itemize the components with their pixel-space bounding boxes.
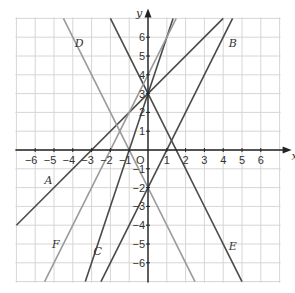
line-label-d: D bbox=[74, 37, 84, 50]
x-tick-label: 6 bbox=[258, 154, 264, 166]
x-axis-arrow-icon bbox=[283, 147, 292, 154]
y-tick-label: −2 bbox=[132, 182, 145, 194]
line-label-a: A bbox=[44, 174, 53, 187]
x-tick-label: 3 bbox=[201, 154, 207, 166]
y-tick-label: −5 bbox=[132, 238, 145, 250]
y-tick-label: 2 bbox=[139, 106, 145, 118]
line-label-f: F bbox=[51, 238, 60, 251]
y-tick-label: 3 bbox=[139, 88, 145, 100]
y-axis-arrow-icon bbox=[145, 8, 152, 17]
coordinate-graph: −6−5−4−3−2−1123456654321−1−2−3−4−5−6xyOA… bbox=[0, 0, 295, 293]
y-axis-label: y bbox=[135, 7, 143, 20]
y-tick-label: 4 bbox=[139, 69, 145, 81]
line-label-c: C bbox=[93, 245, 102, 258]
y-tick-label: 1 bbox=[139, 125, 145, 137]
x-tick-label: −1 bbox=[119, 154, 132, 166]
line-label-e: E bbox=[228, 240, 237, 253]
x-tick-label: −6 bbox=[25, 154, 38, 166]
labels: −6−5−4−3−2−1123456654321−1−2−3−4−5−6xyOA… bbox=[25, 7, 295, 268]
x-tick-label: −4 bbox=[63, 154, 76, 166]
x-tick-label: 5 bbox=[239, 154, 245, 166]
x-axis-label: x bbox=[292, 150, 295, 163]
x-tick-label: 2 bbox=[183, 154, 189, 166]
y-tick-label: −4 bbox=[132, 219, 145, 231]
y-tick-label: 5 bbox=[139, 50, 145, 62]
y-tick-label: −6 bbox=[132, 257, 145, 269]
line-label-b: B bbox=[228, 37, 237, 50]
y-tick-label: 6 bbox=[139, 31, 145, 43]
line-a bbox=[16, 18, 223, 225]
x-tick-label: 1 bbox=[164, 154, 170, 166]
x-tick-label: 4 bbox=[220, 154, 226, 166]
x-tick-label: −3 bbox=[81, 154, 94, 166]
y-tick-label: −3 bbox=[132, 200, 145, 212]
x-tick-label: −5 bbox=[44, 154, 57, 166]
origin-label: O bbox=[136, 154, 145, 166]
x-tick-label: −2 bbox=[100, 154, 113, 166]
